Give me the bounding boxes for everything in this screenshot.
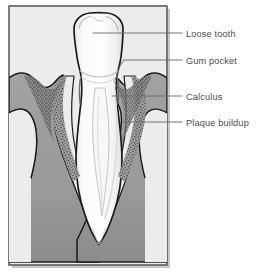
label-calculus: Calculus [186,92,223,102]
label-plaque-buildup: Plaque buildup [186,118,249,128]
label-loose-tooth: Loose tooth [186,29,236,39]
label-gum-pocket: Gum pocket [186,56,237,66]
diagram-root: Loose tooth Gum pocket Calculus Plaque b… [0,0,259,276]
periodontal-diagram: Loose tooth Gum pocket Calculus Plaque b… [0,0,259,276]
